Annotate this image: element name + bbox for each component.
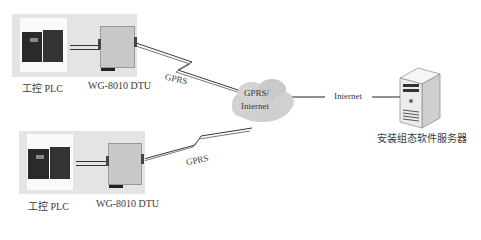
- site2-serial-arrow: [76, 161, 106, 166]
- site1-dtu-icon: [100, 26, 135, 68]
- site2-dtu-icon: [108, 143, 142, 185]
- site2-plc-icon: [28, 145, 71, 183]
- site1-plc-label: 工控 PLC: [22, 80, 63, 95]
- site1-serial-arrow: [70, 45, 100, 50]
- site2-plc-label: 工控 PLC: [28, 198, 69, 213]
- site2-dtu-label: WG-8010 DTU: [96, 198, 159, 209]
- server-label: 安装组态软件服务器: [377, 130, 467, 145]
- site1-dtu-label: WG-8010 DTU: [88, 80, 151, 91]
- server-icon: [400, 68, 440, 128]
- site1-plc-icon: [22, 28, 64, 66]
- cloud-label-line2: Internet: [241, 101, 269, 111]
- internet-label: Internet: [334, 91, 362, 101]
- cloud-label-line1: GPRS/: [244, 88, 269, 98]
